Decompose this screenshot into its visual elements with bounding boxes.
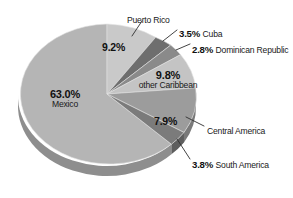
label-central-america-name: Central America [207,121,265,138]
dominican-republic-pct-text: 2.8% [192,44,213,55]
dominican-republic-name-text: Dominican Republic [213,45,288,55]
leader-line-dominican-republic [176,44,190,50]
other-caribbean-name-text: other Caribbean [129,81,207,90]
mexico-name-text: Mexico [34,100,96,109]
label-other-caribbean: 9.8% other Caribbean [129,70,207,90]
label-mexico: 63.0% Mexico [34,89,96,109]
puerto-rico-name-text: Puerto Rico [127,15,170,25]
south-america-pct-text: 3.8% [192,159,213,170]
puerto-rico-pct-text: 9.2% [102,41,125,53]
label-south-america: 3.8%South America [192,155,269,172]
label-cuba: 3.5%Cuba [179,24,222,41]
leader-line-cuba [163,30,177,41]
label-central-america-pct: 7.9% [154,112,177,129]
central-america-pct-text: 7.9% [154,115,177,127]
label-puerto-rico-name: Puerto Rico [127,10,170,27]
central-america-name-text: Central America [207,126,265,136]
label-dominican-republic: 2.8%Dominican Republic [192,40,288,57]
south-america-name-text: South America [213,160,269,170]
cuba-pct-text: 3.5% [179,28,200,39]
cuba-name-text: Cuba [200,29,222,39]
label-puerto-rico-pct: 9.2% [102,38,125,55]
pie-chart: Puerto Rico 9.2% 3.5%Cuba 2.8%Dominican … [0,0,293,198]
